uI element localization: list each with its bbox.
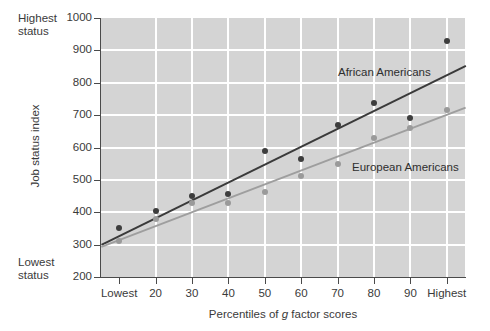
series-label-african-americans: African Americans [338, 66, 431, 78]
x-axis-tick [156, 278, 157, 284]
y-tick-label: 900 [54, 44, 92, 55]
x-tick-label: 80 [368, 287, 381, 299]
x-tick-label: 40 [222, 287, 235, 299]
x-tick-label: 30 [186, 287, 199, 299]
lowest-status-note: Lowest status [18, 256, 54, 281]
highest-status-note: Highest status [18, 12, 57, 37]
y-axis-tick [94, 148, 100, 149]
y-axis-tick [94, 277, 100, 278]
y-tick-label: 700 [54, 109, 92, 120]
y-axis-tick [94, 245, 100, 246]
x-axis-tick [447, 278, 448, 284]
x-tick-label: 90 [404, 287, 417, 299]
x-axis-tick [374, 278, 375, 284]
y-tick-label: 200 [54, 271, 92, 282]
x-axis-tick [338, 278, 339, 284]
y-tick-label: 800 [54, 77, 92, 88]
data-point [189, 200, 195, 206]
x-axis-tick [119, 278, 120, 284]
x-tick-label: 60 [295, 287, 308, 299]
gridline-vertical [337, 18, 339, 277]
series-label-european-americans: European Americans [352, 161, 459, 173]
x-axis-title-prefix: Percentiles of [209, 308, 282, 320]
gridline-vertical [409, 18, 411, 277]
data-point [444, 38, 450, 44]
x-tick-label: Lowest [101, 287, 137, 299]
y-axis-tick [94, 18, 100, 19]
plot-area [101, 18, 465, 277]
gridline-vertical [446, 18, 448, 277]
y-tick-label: 600 [54, 142, 92, 153]
x-tick-label: 20 [149, 287, 162, 299]
y-axis-line [100, 18, 101, 278]
x-axis-tick [265, 278, 266, 284]
y-axis-tick [94, 212, 100, 213]
data-point [153, 208, 159, 214]
x-axis-tick [301, 278, 302, 284]
data-point [298, 156, 304, 162]
x-axis-tick [192, 278, 193, 284]
x-tick-label: 50 [258, 287, 271, 299]
data-point [371, 100, 377, 106]
data-point [262, 189, 268, 195]
gridline-vertical [155, 18, 157, 277]
y-axis-tick [94, 115, 100, 116]
gridline-vertical [191, 18, 193, 277]
data-point [225, 200, 231, 206]
data-point [153, 216, 159, 222]
data-point [189, 193, 195, 199]
data-point [407, 115, 413, 121]
data-point [444, 107, 450, 113]
data-point [407, 125, 413, 131]
data-point [116, 238, 122, 244]
y-axis-tick [94, 50, 100, 51]
chart-figure: 2003004005006007008009001000 Lowest20304… [0, 0, 490, 331]
x-axis-tick [410, 278, 411, 284]
y-tick-label: 500 [54, 174, 92, 185]
data-point [116, 225, 122, 231]
x-axis-title-suffix: factor scores [288, 308, 357, 320]
data-point [262, 148, 268, 154]
data-point [371, 135, 377, 141]
x-axis-title: Percentiles of g factor scores [101, 308, 465, 320]
y-axis-tick [94, 83, 100, 84]
gridline-vertical [227, 18, 229, 277]
gridline-vertical [373, 18, 375, 277]
y-tick-label: 300 [54, 239, 92, 250]
data-point [335, 122, 341, 128]
x-tick-label: 70 [331, 287, 344, 299]
y-tick-label: 400 [54, 206, 92, 217]
data-point [298, 173, 304, 179]
y-tick-label: 1000 [54, 12, 92, 23]
x-tick-label: Highest [427, 287, 466, 299]
y-axis-title: Job status index [29, 91, 41, 201]
y-axis-tick [94, 180, 100, 181]
data-point [335, 161, 341, 167]
x-axis-tick [228, 278, 229, 284]
